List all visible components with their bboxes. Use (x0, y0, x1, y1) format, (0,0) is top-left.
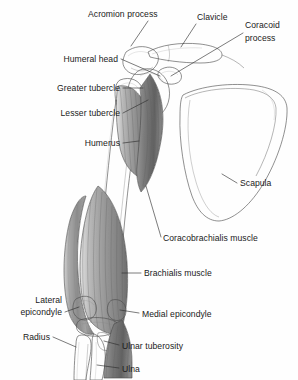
label-medial-epicondyle: Medial epicondyle (142, 309, 212, 319)
label-coracoid-process-line2: process (245, 33, 275, 43)
label-radius: Radius (23, 332, 50, 342)
label-clavicle: Clavicle (197, 12, 228, 22)
label-lateral-epicondyle-line2: epicondyle (20, 307, 62, 317)
label-coracoid-process-line1: Coracoid (245, 20, 280, 30)
label-humerus: Humerus (85, 138, 120, 148)
anatomy-illustration: Acromion process Clavicle Coracoid proce… (0, 0, 298, 380)
label-lesser-tubercle: Lesser tubercle (60, 108, 120, 118)
label-humeral-head: Humeral head (63, 54, 118, 64)
label-lateral-epicondyle-line1: Lateral (35, 295, 62, 305)
anatomy-figure: Acromion process Clavicle Coracoid proce… (0, 0, 298, 380)
label-ulna: Ulna (122, 364, 140, 374)
figure-background (0, 0, 298, 380)
label-acromion-process: Acromion process (88, 9, 158, 19)
label-coracobrachialis-muscle: Coracobrachialis muscle (163, 233, 258, 243)
label-brachialis-muscle: Brachialis muscle (144, 268, 212, 278)
label-scapula: Scapula (240, 178, 272, 188)
label-greater-tubercle: Greater tubercle (57, 83, 120, 93)
label-ulnar-tuberosity: Ulnar tuberosity (122, 341, 184, 351)
